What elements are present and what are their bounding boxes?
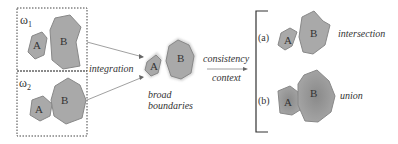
diagram-canvas: ω1 A B ω2 A B integration A B broad boun… bbox=[0, 0, 398, 144]
shape-b-panel2 bbox=[51, 78, 86, 124]
boundaries-label: boundaries bbox=[148, 100, 193, 111]
context-label: context bbox=[212, 72, 241, 83]
shape-b-label: B bbox=[310, 27, 317, 39]
shape-a-label: A bbox=[284, 96, 292, 108]
results-bracket bbox=[256, 11, 268, 132]
shape-a-label: A bbox=[33, 39, 41, 51]
marker-a: (a) bbox=[258, 32, 269, 44]
shape-a-label: A bbox=[284, 34, 292, 46]
arrowhead bbox=[139, 75, 144, 80]
integration-label: integration bbox=[89, 63, 133, 74]
arrow-from-omega1 bbox=[87, 42, 143, 57]
intersection-label: intersection bbox=[338, 28, 385, 39]
arrow-from-omega2 bbox=[87, 77, 143, 100]
omega1-label: ω1 bbox=[20, 13, 32, 29]
omega2-label: ω2 bbox=[19, 76, 31, 92]
shape-b-label: B bbox=[60, 35, 67, 47]
shape-b-label: B bbox=[61, 94, 68, 106]
shape-a-label: A bbox=[150, 60, 158, 72]
union-label: union bbox=[340, 90, 363, 101]
consistency-label: consistency bbox=[203, 53, 250, 64]
shape-a-label: A bbox=[35, 103, 43, 115]
arrowhead bbox=[243, 67, 248, 71]
shape-b-label: B bbox=[310, 87, 317, 99]
arrowhead bbox=[139, 54, 144, 59]
marker-b: (b) bbox=[258, 95, 270, 107]
broad-label: broad bbox=[148, 89, 173, 100]
shape-b-label: B bbox=[177, 52, 184, 64]
